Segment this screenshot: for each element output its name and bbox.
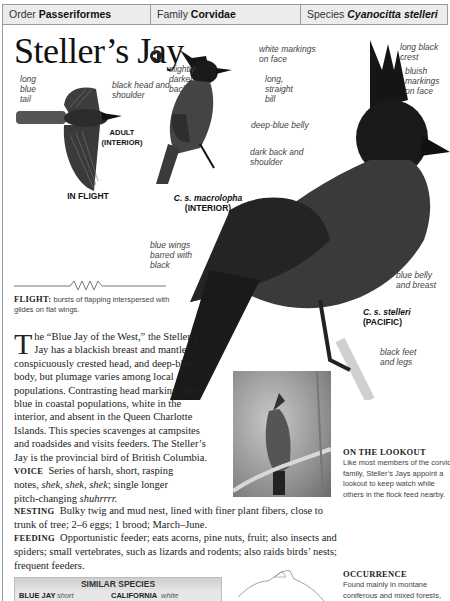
- taxonomy-header: Order Passeriformes Family Corvidae Spec…: [2, 4, 448, 25]
- label-adult-interior: ADULT(INTERIOR): [100, 128, 144, 148]
- family-value: Corvidae: [191, 8, 236, 20]
- label-dark-back: dark back and shoulder: [250, 147, 310, 167]
- family-cell: Family Corvidae: [151, 5, 301, 24]
- lookout-text: Like most members of the corvid family, …: [343, 458, 450, 500]
- lookout-photo: [233, 371, 331, 497]
- lookout-heading: ON THE LOOKOUT: [343, 447, 450, 457]
- occurrence-panel: OCCURRENCE Found mainly in montane conif…: [343, 569, 450, 601]
- species-description: The “Blue Jay of the West,” the Steller’…: [14, 330, 210, 464]
- flight-caption: IN FLIGHT: [58, 191, 118, 201]
- label-long-blue-tail: long blue tail: [20, 74, 48, 104]
- species-value: Cyanocitta stelleri: [347, 8, 437, 20]
- drop-cap: T: [14, 332, 32, 356]
- flight-pattern-icon: [14, 279, 166, 291]
- scrub-jay-name: CALIFORNIA SCRUB-JAY: [111, 592, 159, 601]
- similar-species-row: BLUE JAY short blue crest CALIFORNIA SCR…: [15, 590, 221, 601]
- label-black-feet: black feet and legs: [380, 347, 424, 367]
- range-map: [228, 567, 328, 601]
- voice-section: VOICE Series of harsh, short, rasping no…: [14, 464, 184, 505]
- similar-species-title: SIMILAR SPECIES: [15, 578, 221, 590]
- occurrence-text: Found mainly in montane coniferous and m…: [343, 580, 450, 601]
- lookout-panel: ON THE LOOKOUT Like most members of the …: [343, 447, 450, 500]
- label-blue-wings: blue wings barred with black: [150, 240, 212, 270]
- order-cell: Order Passeriformes: [3, 5, 151, 24]
- blue-jay-name: BLUE JAY: [19, 592, 55, 600]
- label-long-black-crest: long black crest: [400, 42, 448, 62]
- scrub-jay-note: white eyebrow: [161, 592, 189, 601]
- page-border: [2, 25, 3, 601]
- label-blue-belly: blue belly and breast: [396, 270, 448, 290]
- similar-species-panel: SIMILAR SPECIES BLUE JAY short blue cres…: [14, 577, 222, 601]
- blue-jay-note: short blue crest: [57, 592, 89, 601]
- order-value: Passeriformes: [39, 8, 111, 20]
- label-stelleri: C. s. stelleri(PACIFIC): [363, 307, 423, 327]
- species-cell: Species Cyanocitta stelleri: [301, 5, 447, 24]
- occurrence-heading: OCCURRENCE: [343, 569, 450, 579]
- flight-description: FLIGHT: bursts of flapping interspersed …: [14, 294, 174, 315]
- label-bluish-markings: bluish markings on face: [405, 66, 443, 96]
- nesting-section: NESTING Bulky twig and mud nest, lined w…: [14, 504, 334, 532]
